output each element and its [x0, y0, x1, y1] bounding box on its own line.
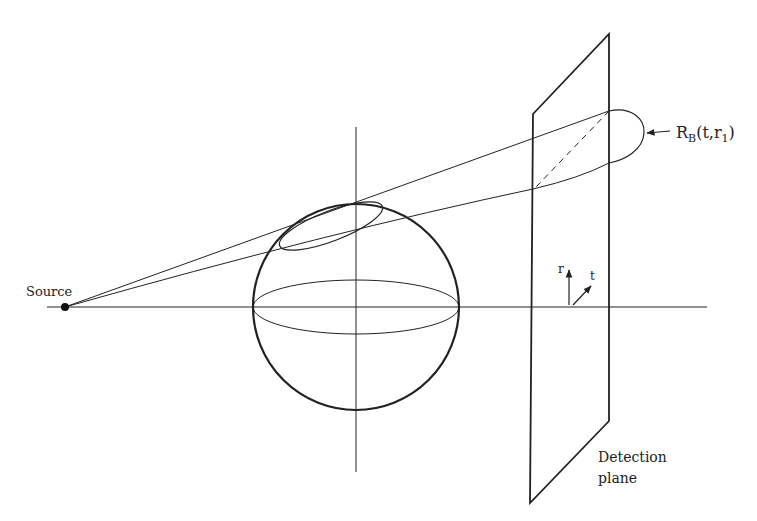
source-label: Source [26, 284, 73, 299]
rb-pointer-arrow [647, 131, 670, 133]
dashed-projection-line [535, 111, 609, 188]
rb-label: RB(t,r1) [676, 123, 735, 145]
detection-plane-label-line1: Detection [598, 449, 667, 465]
source-point [61, 303, 69, 311]
ray-lower [65, 163, 609, 307]
detection-plane-label-line2: plane [598, 470, 637, 486]
detection-plane [530, 34, 609, 503]
r-axis-label: r [558, 262, 564, 276]
t-axis-arrow [573, 286, 591, 305]
diagram-canvas: Source RB(t,r1) r t Detection plane [0, 0, 757, 521]
ray-upper [65, 111, 609, 307]
t-axis-label: t [590, 269, 595, 283]
rb-region-loop [609, 110, 644, 163]
